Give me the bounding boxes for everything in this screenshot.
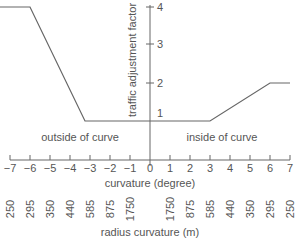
- x-tick-label: 7: [287, 162, 293, 174]
- data-line: [0, 7, 290, 121]
- radius-tick-label: 440: [64, 200, 76, 218]
- x-tick-label: −7: [4, 162, 17, 174]
- radius-tick-label: 250: [284, 200, 296, 218]
- axes: −7−6−5−4−3−2−1012345671234: [4, 1, 293, 174]
- inside-curve-label: inside of curve: [187, 131, 258, 143]
- radius-tick-label: 875: [184, 200, 196, 218]
- x-tick-label: 0: [147, 162, 153, 174]
- y-tick-label: 4: [157, 1, 163, 13]
- x-tick-label: 4: [227, 162, 233, 174]
- radius-tick-label: 875: [104, 200, 116, 218]
- x-tick-label: −2: [104, 162, 117, 174]
- x-tick-label: −4: [64, 162, 77, 174]
- radius-tick-label: 1750: [164, 197, 176, 221]
- x-tick-label: 1: [167, 162, 173, 174]
- radius-tick-label: 585: [204, 200, 216, 218]
- y-tick-label: 2: [157, 77, 163, 89]
- x-tick-label: −1: [124, 162, 137, 174]
- x-axis-label: curvature (degree): [105, 177, 196, 189]
- x-tick-label: −5: [44, 162, 57, 174]
- x-tick-label: 3: [207, 162, 213, 174]
- x-tick-label: 2: [187, 162, 193, 174]
- radius-tick-label: 585: [84, 200, 96, 218]
- chart-canvas: −7−6−5−4−3−2−1012345671234 outside of cu…: [0, 0, 297, 239]
- y-tick-label: 3: [157, 38, 163, 50]
- radius-tick-label: 350: [44, 200, 56, 218]
- x-tick-label: −3: [84, 162, 97, 174]
- y-tick-label: 1: [157, 107, 163, 119]
- outside-curve-label: outside of curve: [41, 131, 119, 143]
- radius-tick-label: 295: [264, 200, 276, 218]
- radius-tick-label: 250: [4, 200, 16, 218]
- secondary-x-axis-label: radius curvature (m): [101, 226, 199, 238]
- x-tick-label: −6: [24, 162, 37, 174]
- x-tick-label: 6: [267, 162, 273, 174]
- radius-tick-labels: 2502953504405858751750175087558544035029…: [4, 197, 296, 221]
- radius-tick-label: 1750: [124, 197, 136, 221]
- radius-tick-label: 440: [224, 200, 236, 218]
- y-axis-label: traffic adjustment factor: [126, 3, 138, 117]
- radius-tick-label: 295: [24, 200, 36, 218]
- radius-tick-label: 350: [244, 200, 256, 218]
- x-tick-label: 5: [247, 162, 253, 174]
